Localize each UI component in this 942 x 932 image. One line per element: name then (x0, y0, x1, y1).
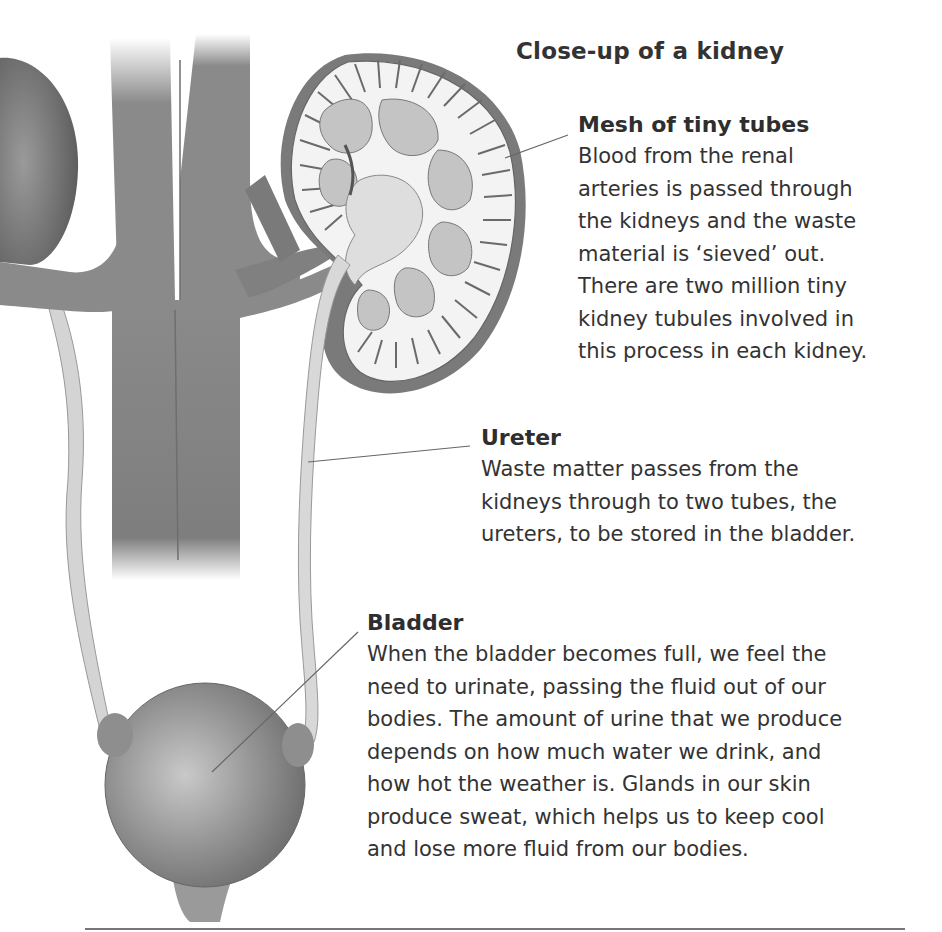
label-line: ureters, to be stored in the bladder. (481, 518, 941, 551)
label-line: this process in each kidney. (578, 335, 938, 368)
label-line: When the bladder becomes full, we feel t… (367, 638, 937, 671)
label-line: kidney tubules involved in (578, 303, 938, 336)
label-heading: Ureter (481, 423, 941, 453)
label-line: and lose more fluid from our bodies. (367, 833, 937, 866)
leader-ureter (308, 446, 470, 462)
label-line: depends on how much water we drink, and (367, 736, 937, 769)
label-line: bodies. The amount of urine that we prod… (367, 703, 937, 736)
label-line: the kidneys and the waste (578, 205, 938, 238)
left-ureter (48, 305, 112, 735)
label-bladder: Bladder When the bladder becomes full, w… (367, 608, 937, 866)
label-line: arteries is passed through (578, 173, 938, 206)
label-heading: Bladder (367, 608, 937, 638)
label-line: produce sweat, which helps us to keep co… (367, 801, 937, 834)
label-line: kidneys through to two tubes, the (481, 486, 941, 519)
bottom-divider (85, 928, 905, 930)
bladder (97, 683, 314, 922)
label-line: There are two million tiny (578, 270, 938, 303)
label-line: need to urinate, passing the fluid out o… (367, 671, 937, 704)
label-line: Waste matter passes from the (481, 453, 941, 486)
diagram-title: Close-up of a kidney (516, 38, 784, 64)
label-ureter: Ureter Waste matter passes from the kidn… (481, 423, 941, 551)
label-heading: Mesh of tiny tubes (578, 110, 938, 140)
label-line: material is ‘sieved’ out. (578, 238, 938, 271)
left-kidney (0, 58, 78, 265)
label-mesh-of-tiny-tubes: Mesh of tiny tubes Blood from the renal … (578, 110, 938, 368)
label-line: how hot the weather is. Glands in our sk… (367, 768, 937, 801)
label-line: Blood from the renal (578, 140, 938, 173)
